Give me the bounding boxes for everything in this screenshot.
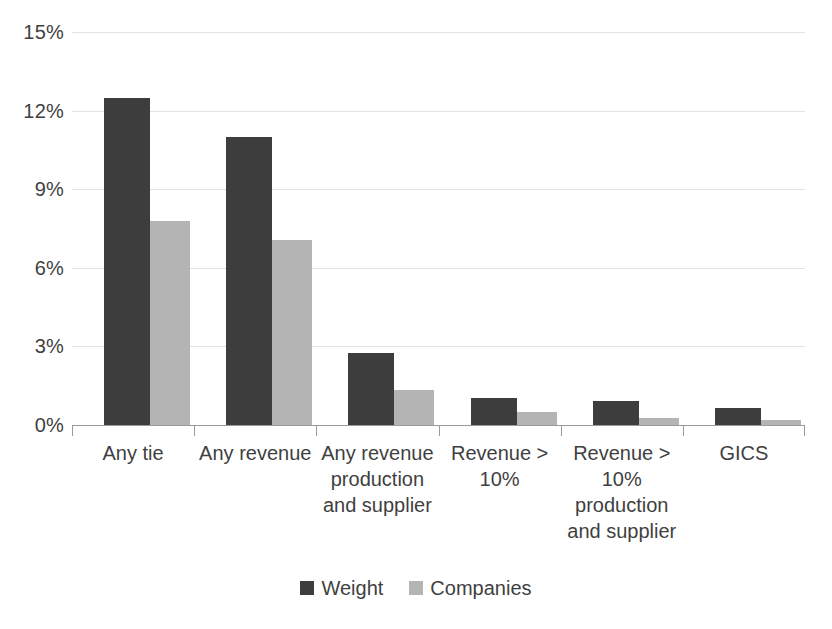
bar-group: [561, 32, 683, 425]
y-tick-label-3: 3%: [8, 336, 64, 356]
x-axis-labels: Any tieAny revenueAny revenue production…: [72, 440, 805, 570]
bar-companies[interactable]: [272, 240, 312, 425]
x-axis-tick: [683, 425, 684, 436]
x-axis-label: Any revenue: [194, 440, 316, 570]
x-axis-tick: [561, 425, 562, 436]
bars-layer: [72, 32, 805, 425]
y-tick-label-9: 9%: [8, 179, 64, 199]
x-axis-tick: [316, 425, 317, 436]
bar-weight[interactable]: [348, 353, 394, 425]
x-axis-label: GICS: [683, 440, 805, 570]
legend-swatch-icon: [300, 581, 314, 595]
y-tick-label-6: 6%: [8, 258, 64, 278]
x-axis-tick: [194, 425, 195, 436]
y-tick-label-15: 15%: [8, 22, 64, 42]
bar-weight[interactable]: [104, 98, 150, 426]
y-axis: 15% 12% 9% 6% 3% 0%: [0, 0, 64, 629]
x-axis-label: Revenue > 10% production and supplier: [561, 440, 683, 570]
y-tick-label-12: 12%: [8, 101, 64, 121]
bar-companies[interactable]: [394, 390, 434, 425]
bar-weight[interactable]: [715, 408, 761, 425]
bar-weight[interactable]: [593, 401, 639, 425]
bar-group: [683, 32, 805, 425]
legend-item-weight[interactable]: Weight: [300, 578, 383, 598]
legend-label: Companies: [430, 578, 531, 598]
x-axis-tick: [72, 425, 73, 436]
bar-chart: 15% 12% 9% 6% 3% 0% Any tieAny revenueAn…: [0, 0, 832, 629]
bar-weight[interactable]: [226, 137, 272, 425]
x-axis-tick: [804, 425, 805, 436]
bar-group: [439, 32, 561, 425]
x-axis-label: Any tie: [72, 440, 194, 570]
bar-companies[interactable]: [517, 412, 557, 425]
chart-legend: WeightCompanies: [0, 578, 832, 598]
bar-group: [72, 32, 194, 425]
x-axis-tick: [439, 425, 440, 436]
bar-group: [316, 32, 438, 425]
y-tick-label-0: 0%: [8, 415, 64, 435]
legend-label: Weight: [321, 578, 383, 598]
x-axis-label: Any revenue production and supplier: [316, 440, 438, 570]
bar-companies[interactable]: [150, 221, 190, 425]
legend-item-companies[interactable]: Companies: [409, 578, 531, 598]
x-axis-label: Revenue > 10%: [439, 440, 561, 570]
bar-group: [194, 32, 316, 425]
legend-swatch-icon: [409, 581, 423, 595]
x-axis-ticks: [72, 425, 805, 437]
bar-weight[interactable]: [471, 398, 517, 426]
